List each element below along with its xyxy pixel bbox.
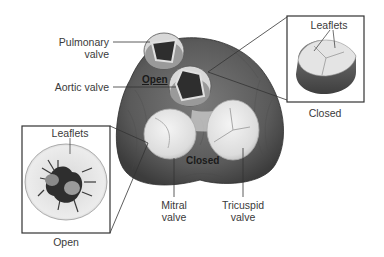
- inset-open-caption: Open: [41, 236, 91, 248]
- pulmonary-valve: [144, 33, 184, 69]
- tricuspid-valve-label-line1: Tricuspid: [218, 199, 268, 211]
- tricuspid-valve-label-line2: valve: [218, 211, 268, 223]
- pulmonary-valve-label: Pulmonary valve: [40, 36, 109, 60]
- inset-closed-caption: Closed: [300, 107, 350, 119]
- tricuspid-valve: [207, 100, 259, 160]
- inset-open-leaflets-label: Leaflets: [45, 127, 95, 139]
- aortic-valve: [169, 66, 211, 106]
- mitral-valve-label-line2: valve: [154, 211, 194, 223]
- inset-open-valve: [22, 126, 110, 233]
- pulmonary-valve-label-line2: valve: [40, 48, 109, 60]
- inset-closed-leaflets-label: Leaflets: [304, 19, 354, 31]
- aortic-valve-label: Aortic valve: [40, 81, 109, 93]
- mitral-valve-label-line1: Mitral: [154, 199, 194, 211]
- heart-valves-diagram: Pulmonary valve Aortic valve Open Closed…: [0, 0, 384, 257]
- mitral-valve: [144, 109, 196, 159]
- closed-state-label: Closed: [186, 155, 219, 167]
- mitral-valve-label: Mitral valve: [154, 199, 194, 223]
- open-state-label: Open: [142, 74, 168, 86]
- tricuspid-valve-label: Tricuspid valve: [218, 199, 268, 223]
- pulmonary-valve-label-line1: Pulmonary: [40, 36, 109, 48]
